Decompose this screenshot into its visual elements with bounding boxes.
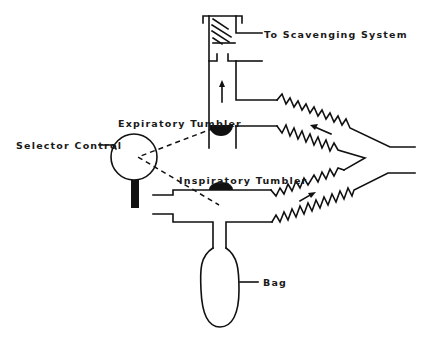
label-inspiratory-tumbler: Inspiratory Tumbler xyxy=(179,175,307,186)
expiratory-hose-inner xyxy=(277,125,365,170)
inspiratory-hose-flow-arrow xyxy=(300,192,316,201)
expiratory-hose-flow-arrow xyxy=(310,124,331,134)
label-bag: Bag xyxy=(263,277,287,288)
breathing-system-diagram: To Scavenging System Expiratory Tumbler … xyxy=(0,0,434,346)
label-expiratory-tumbler: Expiratory Tumbler xyxy=(118,118,242,129)
label-scavenging: To Scavenging System xyxy=(264,29,408,40)
expiratory-flow-arrow xyxy=(219,80,225,102)
selector-handle xyxy=(131,180,139,208)
filter-hatch xyxy=(212,19,235,44)
reservoir-bag xyxy=(201,248,258,327)
inspiratory-limb xyxy=(153,182,272,248)
label-selector-control: Selector Control xyxy=(16,140,122,151)
